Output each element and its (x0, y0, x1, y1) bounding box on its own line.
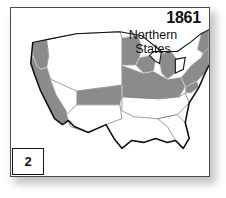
year-label: 1861 (166, 10, 201, 26)
figure-number: 2 (24, 155, 31, 168)
region-label-line2: States (107, 43, 199, 57)
lake-erie-ontario (175, 57, 185, 73)
region-label-line1: Northern (129, 28, 178, 42)
state-texas-indian-territory (66, 105, 121, 133)
figure-container: 1861 Northern States 2 (0, 0, 226, 198)
map-plate: 1861 Northern States 2 (10, 7, 210, 177)
region-label: Northern States (107, 29, 199, 56)
figure-number-box: 2 (12, 148, 44, 175)
state-florida (158, 115, 190, 149)
